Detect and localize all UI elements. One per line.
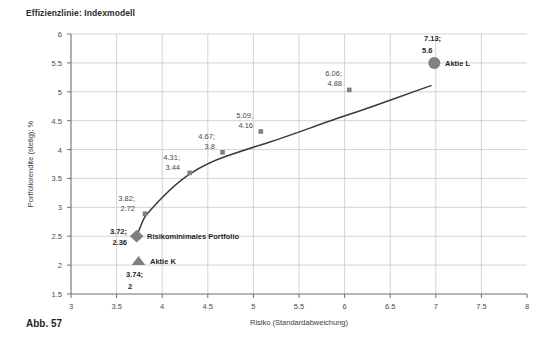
y-tick-label: 4.5 [52, 117, 62, 126]
point-label-4-31-line1: 4.31; [163, 153, 180, 162]
y-tick-label: 2 [58, 261, 62, 270]
min-variance-value-line2: 2.36 [112, 238, 127, 247]
x-tick-label: 4 [160, 302, 164, 311]
aktie-l-value-line1: 7.13; [424, 34, 441, 43]
data-point-marker [143, 211, 148, 216]
aktie-k-value-line1: 3.74; [126, 270, 143, 279]
point-label-4-31-line2: 3.44 [165, 163, 180, 172]
x-tick-label: 7.5 [476, 302, 486, 311]
x-axis-tick-labels: 3 3.5 4 4.5 5 5.5 6 6.5 7 7.5 8 [69, 302, 529, 311]
x-tick-label: 6 [343, 302, 347, 311]
y-axis-tick-labels: 6 5.5 5 4.5 4 3.5 3 2.5 2 1.5 [52, 30, 62, 299]
x-tick-label: 8 [525, 302, 529, 311]
x-tick-label: 3 [69, 302, 73, 311]
point-label-3-82-line2: 2.72 [120, 204, 135, 213]
curve-data-markers [143, 88, 352, 216]
y-tick-label: 6 [58, 30, 62, 39]
y-tick-label: 3.5 [52, 174, 62, 183]
data-point-marker [220, 150, 225, 155]
triangle-marker [132, 256, 146, 265]
aktie-k-label: Aktie K [150, 257, 176, 266]
x-axis-title: Risiko (Standardabweichung) [250, 318, 348, 327]
min-variance-label: Risikominimales Portfolio [147, 232, 240, 241]
y-tick-label: 1.5 [52, 290, 62, 299]
y-tick-label: 5.5 [52, 59, 62, 68]
aktie-l-value-line2: 5.6 [422, 46, 432, 55]
point-label-4-67-line1: 4.67; [198, 132, 215, 141]
x-tick-label: 5 [251, 302, 255, 311]
y-axis-ticks [67, 34, 71, 294]
annotation-min-variance-portfolio: 3.72; 2.36 Risikominimales Portfolio [110, 227, 240, 247]
x-tick-label: 7 [434, 302, 438, 311]
point-label-3-82-line1: 3.82; [118, 194, 135, 203]
aktie-l-label: Aktie L [445, 59, 470, 68]
point-label-4-67-line2: 3.8 [205, 142, 215, 151]
figure-caption: Abb. 57 [26, 318, 62, 329]
x-axis-ticks [71, 294, 527, 298]
data-point-marker [259, 129, 264, 134]
y-tick-label: 3 [58, 203, 62, 212]
x-tick-label: 3.5 [111, 302, 121, 311]
point-label-6-06-line1: 6.06; [325, 69, 342, 78]
data-point-marker [347, 88, 352, 93]
point-label-5-09-line1: 5.09; [236, 111, 253, 120]
circle-marker [428, 57, 440, 69]
x-tick-label: 4.5 [203, 302, 213, 311]
annotation-aktie-l: 7.13; 5.6 Aktie L [422, 34, 470, 69]
x-tick-label: 6.5 [385, 302, 395, 311]
min-variance-value-line1: 3.72; [110, 227, 127, 236]
point-label-5-09-line2: 4.16 [238, 121, 253, 130]
x-tick-label: 5.5 [294, 302, 304, 311]
efficient-frontier-line [137, 86, 431, 237]
y-tick-label: 5 [58, 88, 62, 97]
curve-point-labels: 3.82; 2.72 4.31; 3.44 4.67; 3.8 5.09; 4.… [118, 69, 342, 213]
point-label-6-06-line2: 4.88 [327, 79, 342, 88]
y-tick-label: 2.5 [52, 232, 62, 241]
data-point-marker [187, 171, 192, 176]
y-tick-label: 4 [58, 146, 62, 155]
y-axis-title: Portfoliorendite (stetig); % [26, 121, 35, 208]
annotation-aktie-k: Aktie K 3.74; 2 [126, 256, 176, 291]
aktie-k-value-line2: 2 [128, 282, 132, 291]
efficient-frontier-chart: 6 5.5 5 4.5 4 3.5 3 2.5 2 1.5 3 3.5 4 4.… [0, 0, 548, 348]
diamond-marker [130, 230, 144, 243]
